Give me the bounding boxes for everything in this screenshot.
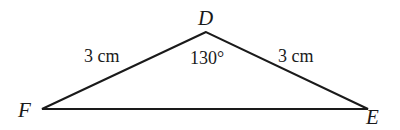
triangle-def [42,32,368,109]
side-label-de: 3 cm [278,46,314,66]
vertex-label-e: E [365,105,379,129]
triangle-diagram: D F E 3 cm 3 cm 130° [0,0,400,130]
vertex-label-d: D [197,6,213,30]
side-label-df: 3 cm [84,46,120,66]
vertex-label-f: F [17,98,31,122]
angle-label-d: 130° [190,48,224,68]
